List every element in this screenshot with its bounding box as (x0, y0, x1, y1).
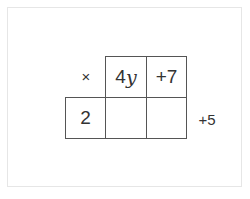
coefficient: 4 (115, 66, 126, 88)
side-cell-2: 2 (65, 97, 106, 139)
header-cell-plus7: +7 (146, 56, 187, 98)
header-cell-4y: 4y (105, 56, 147, 98)
header-term: +7 (156, 66, 178, 88)
side-annotation: +5 (196, 110, 218, 128)
side-term: 2 (80, 107, 91, 129)
variable: y (126, 66, 137, 88)
product-cell-2 (146, 97, 187, 139)
multiply-operator: × (66, 56, 106, 97)
product-cell-1 (105, 97, 147, 139)
